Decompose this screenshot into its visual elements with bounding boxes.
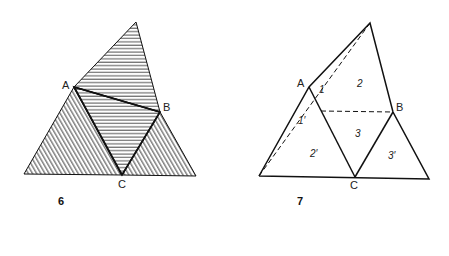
region-2: 2 — [356, 78, 363, 89]
region-3: 3 — [355, 128, 361, 139]
figure-7-labels: A B C 1 2 3 1′ 2′ 3′ 7 — [297, 77, 403, 207]
region-1: 1 — [319, 84, 325, 95]
region-3-prime: 3′ — [388, 150, 397, 161]
diagram-canvas: A B C 6 A B C 1 2 3 1′ 2′ 3′ 7 — [0, 0, 449, 256]
figure-6: A B C 6 — [24, 22, 196, 207]
label-a: A — [62, 79, 70, 91]
region-1-prime: 1′ — [298, 115, 307, 126]
figure-7 — [259, 23, 429, 179]
label-b: B — [396, 101, 403, 113]
label-a: A — [297, 77, 305, 89]
label-c: C — [350, 179, 358, 191]
figure-number: 6 — [58, 195, 64, 207]
figure-number: 7 — [297, 195, 303, 207]
label-c: C — [118, 178, 126, 190]
label-b: B — [163, 101, 170, 113]
region-2-prime: 2′ — [309, 148, 319, 159]
